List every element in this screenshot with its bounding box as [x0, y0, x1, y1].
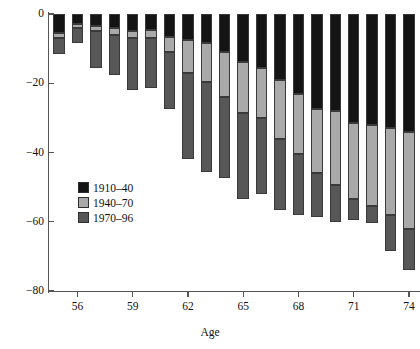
- bar-segment: [237, 14, 248, 62]
- bar: [53, 14, 64, 291]
- bar-segment: [90, 14, 101, 26]
- bar-segment: [366, 125, 377, 206]
- x-axis-tick: [77, 291, 78, 297]
- bar: [182, 14, 193, 291]
- bar-segment: [182, 14, 193, 40]
- bar-segment: [348, 123, 359, 199]
- bar-segment: [311, 173, 322, 216]
- bar: [109, 14, 120, 291]
- y-axis-tick: [48, 152, 54, 153]
- bar-segment: [182, 40, 193, 73]
- x-axis-tick-label: 65: [228, 300, 258, 312]
- bar-segment: [293, 154, 304, 215]
- bar-segment: [311, 109, 322, 173]
- y-axis-tick: [48, 290, 54, 291]
- x-axis-tick-label: 74: [394, 300, 420, 312]
- x-axis-tick: [353, 291, 354, 297]
- legend-label: 1940–70: [93, 197, 133, 209]
- bar-segment: [403, 14, 414, 132]
- bar-segment: [385, 215, 396, 251]
- legend-swatch: [78, 182, 89, 193]
- bar-segment: [385, 14, 396, 128]
- bar-segment: [293, 14, 304, 94]
- bar-segment: [385, 128, 396, 215]
- bar-segment: [330, 111, 341, 185]
- y-axis-tick: [48, 13, 54, 14]
- y-axis-tick-label: −40: [26, 147, 44, 159]
- chart-legend: 1910–401940–701970–96: [78, 180, 133, 225]
- bar: [145, 14, 156, 291]
- bar-segment: [348, 199, 359, 220]
- bar: [237, 14, 248, 291]
- bar-segment: [237, 113, 248, 200]
- legend-item: 1910–40: [78, 180, 133, 195]
- bar: [127, 14, 138, 291]
- x-axis-tick-label: 62: [173, 300, 203, 312]
- y-axis-tick: [48, 221, 54, 222]
- y-axis-tick-label: −80: [26, 285, 44, 297]
- legend-item: 1970–96: [78, 210, 133, 225]
- legend-item: 1940–70: [78, 195, 133, 210]
- bar-segment: [330, 185, 341, 221]
- bar-segment: [164, 14, 175, 37]
- bar-segment: [201, 14, 212, 43]
- bar-segment: [293, 94, 304, 155]
- bar-segment: [311, 14, 322, 109]
- bar: [274, 14, 285, 291]
- bar: [256, 14, 267, 291]
- x-axis-tick: [408, 291, 409, 297]
- bar-segment: [127, 14, 138, 31]
- bar-segment: [145, 30, 156, 39]
- x-axis-tick-label: 68: [283, 300, 313, 312]
- bar-segment: [366, 206, 377, 223]
- bar: [366, 14, 377, 291]
- bar-segment: [90, 31, 101, 67]
- x-axis-tick: [187, 291, 188, 297]
- bar-segment: [109, 28, 120, 35]
- y-axis-tick-label: −60: [26, 216, 44, 228]
- y-axis-tick: [48, 83, 54, 84]
- x-axis-tick-label: 59: [118, 300, 148, 312]
- legend-label: 1970–96: [93, 212, 133, 224]
- bar: [72, 14, 83, 291]
- bar-segment: [256, 68, 267, 118]
- legend-swatch: [78, 197, 89, 208]
- bar: [164, 14, 175, 291]
- plot-area: [48, 14, 420, 291]
- bar-segment: [201, 43, 212, 81]
- bar-segment: [164, 52, 175, 109]
- bar-segment: [219, 97, 230, 178]
- bar: [403, 14, 414, 291]
- x-axis-tick: [132, 291, 133, 297]
- bar-segment: [348, 14, 359, 123]
- bar-segment: [53, 38, 64, 54]
- bar-segment: [366, 14, 377, 125]
- bar-segment: [164, 37, 175, 53]
- bar-segment: [274, 80, 285, 139]
- bar: [90, 14, 101, 291]
- bar-segment: [219, 52, 230, 97]
- bar-segment: [403, 132, 414, 229]
- x-axis-line: [48, 291, 420, 292]
- y-axis-tick-label: −20: [26, 77, 44, 89]
- bar-segment: [274, 14, 285, 80]
- bar-segment: [145, 38, 156, 88]
- bar: [201, 14, 212, 291]
- bar-segment: [72, 14, 83, 24]
- bar: [293, 14, 304, 291]
- bar-segment: [72, 28, 83, 44]
- bar-segment: [201, 82, 212, 172]
- bar: [330, 14, 341, 291]
- legend-swatch: [78, 212, 89, 223]
- bar-segment: [182, 73, 193, 160]
- bar-segment: [219, 14, 230, 52]
- bar: [311, 14, 322, 291]
- bar-segment: [109, 35, 120, 75]
- bar-segment: [274, 139, 285, 210]
- bar: [219, 14, 230, 291]
- bar-segment: [237, 62, 248, 112]
- bar-segment: [403, 229, 414, 271]
- bar-segment: [127, 31, 138, 38]
- x-axis-tick: [298, 291, 299, 297]
- x-axis-tick-label: 71: [339, 300, 369, 312]
